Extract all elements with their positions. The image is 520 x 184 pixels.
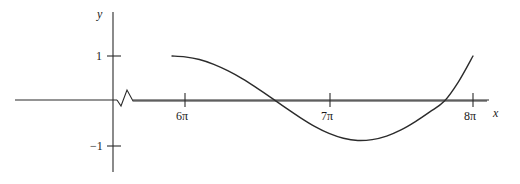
cosine-curve — [172, 56, 473, 141]
axis-break-zigzag-icon — [117, 90, 487, 106]
x-axis-label: x — [493, 107, 498, 119]
x-tick-label-7pi: 7π — [321, 110, 333, 122]
y-tick-label-1: 1 — [96, 50, 102, 62]
y-tick-label-neg1: −1 — [90, 140, 103, 152]
graph-figure: y x 1 −1 6π 7π 8π — [0, 0, 520, 184]
x-tick-label-6pi: 6π — [176, 110, 188, 122]
x-tick-label-8pi: 8π — [464, 110, 476, 122]
plot-canvas — [0, 0, 520, 184]
y-axis-label: y — [97, 8, 102, 20]
